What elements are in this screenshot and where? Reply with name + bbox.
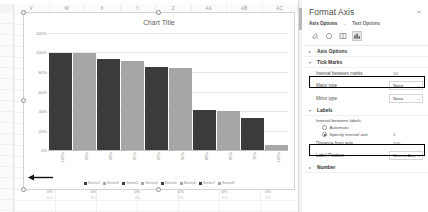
field-minor-type[interactable]: Minor type None ⌄: [304, 92, 428, 105]
field-label-position[interactable]: Label Position Next to Axis ⌄: [304, 149, 428, 162]
x-axis-tick-label: 93%: [144, 151, 168, 173]
chart-bar[interactable]: [241, 118, 264, 150]
chevron-down-icon[interactable]: ⌄: [416, 8, 422, 15]
chevron-down-icon[interactable]: ⌄: [417, 154, 420, 158]
chevron-down-icon[interactable]: ⌄: [417, 97, 420, 101]
radio-specify-interval-unit-label: Specify interval unit: [330, 132, 391, 137]
row-header-cell[interactable]: [0, 35, 14, 46]
row-header-cell[interactable]: [0, 178, 14, 189]
select-all-corner[interactable]: [0, 4, 14, 13]
row-header-cell[interactable]: [0, 46, 14, 57]
chart-bar[interactable]: [217, 111, 240, 150]
bar-series-group[interactable]: [48, 33, 288, 150]
section-tick-marks[interactable]: ▾ Tick Marks: [304, 57, 428, 68]
chevron-right-icon[interactable]: ▸: [309, 165, 314, 170]
worksheet-cell[interactable]: 0%0%: [28, 188, 72, 208]
chart-object[interactable]: Chart Title 120%100%80%60%40%20%0% 100%9…: [23, 12, 295, 190]
row-header-cell[interactable]: [0, 24, 14, 35]
label-position-dropdown[interactable]: Next to Axis ⌄: [389, 151, 423, 160]
legend-item[interactable]: Series5: [161, 181, 177, 185]
section-number[interactable]: ▸ Number: [304, 162, 428, 173]
section-axis-options[interactable]: ▸ Axis Options: [304, 46, 428, 57]
legend-item[interactable]: Series4: [141, 181, 157, 185]
tab-text-options[interactable]: Text Options: [352, 21, 380, 26]
worksheet-cell[interactable]: 0%0%: [72, 188, 116, 208]
legend-item[interactable]: Series6: [180, 181, 196, 185]
row-header-cell[interactable]: [0, 112, 14, 123]
chart-bar[interactable]: [193, 110, 216, 150]
fill-line-icon[interactable]: [310, 31, 320, 41]
pane-resize-grip[interactable]: [299, 8, 302, 30]
format-axis-pane[interactable]: Format Axis ⌄ Axis Options ⌄ Text Option…: [298, 0, 428, 212]
row-header-cell[interactable]: [0, 101, 14, 112]
radio-automatic[interactable]: Automatic: [304, 124, 428, 131]
pane-splitter[interactable]: [299, 0, 302, 212]
section-labels[interactable]: ▾ Labels: [304, 105, 428, 116]
specify-interval-unit-input[interactable]: 1: [393, 132, 423, 137]
legend-item[interactable]: Series2: [103, 181, 119, 185]
field-major-type[interactable]: Major type None ⌄: [304, 79, 428, 92]
chart-resize-handle-top-left[interactable]: [21, 10, 26, 15]
row-header-cell[interactable]: [0, 90, 14, 101]
radio-specify-interval-unit-button[interactable]: [322, 132, 327, 137]
x-axis-tick-labels[interactable]: 100%99%98%95%93%90%88%85%70%100%: [48, 151, 288, 173]
worksheet-area[interactable]: V W X Y Z AA AB AC: [0, 0, 298, 212]
radio-specify-interval-unit[interactable]: Specify interval unit 1: [304, 131, 428, 138]
chart-bar[interactable]: [73, 53, 96, 150]
radio-automatic-label: Automatic: [330, 125, 424, 130]
row-header-cell[interactable]: [0, 145, 14, 156]
row-header-cell[interactable]: [0, 134, 14, 145]
row-header-cell[interactable]: [0, 167, 14, 178]
worksheet-cell[interactable]: 0%0%: [115, 188, 159, 208]
axis-options-icon[interactable]: [352, 31, 362, 41]
worksheet-cell[interactable]: 0%0%: [246, 188, 290, 208]
chart-bar[interactable]: [49, 53, 72, 151]
worksheet-cell[interactable]: 0%0%: [203, 188, 247, 208]
chart-resize-handle-bottom-center[interactable]: [156, 187, 161, 192]
field-interval-between-marks[interactable]: Interval between marks 10: [304, 68, 428, 79]
chevron-down-icon[interactable]: ⌄: [417, 84, 420, 88]
legend-item[interactable]: Series7: [199, 181, 215, 185]
legend-item[interactable]: Series8: [218, 181, 234, 185]
row-header-cell[interactable]: [0, 79, 14, 90]
minor-type-dropdown[interactable]: None ⌄: [389, 94, 423, 103]
legend-item[interactable]: Series3: [122, 181, 138, 185]
size-and-properties-icon[interactable]: [338, 31, 348, 41]
chart-resize-handle-top-center[interactable]: [156, 10, 161, 15]
row-header-cell[interactable]: [0, 123, 14, 134]
y-axis-tick-labels[interactable]: 120%100%80%60%40%20%0%: [26, 33, 48, 150]
chart-bar[interactable]: [145, 67, 168, 150]
chart-bar[interactable]: [121, 61, 144, 150]
chart-resize-handle-bottom-left[interactable]: [21, 187, 26, 192]
field-distance-from-axis[interactable]: Distance from axis 100: [304, 138, 428, 149]
row-header-cell[interactable]: [0, 156, 14, 167]
legend-item[interactable]: Series1: [84, 181, 100, 185]
interval-between-marks-input[interactable]: 10: [393, 71, 423, 76]
legend-swatch: [218, 182, 221, 185]
chart-legend[interactable]: Series1Series2Series3Series4Series5Serie…: [24, 181, 294, 185]
chevron-down-icon[interactable]: ▾: [309, 108, 314, 113]
tab-axis-options[interactable]: Axis Options: [309, 21, 337, 26]
radio-automatic-button[interactable]: [322, 125, 327, 130]
chart-bar[interactable]: [97, 59, 120, 150]
row-header-cell[interactable]: [0, 68, 14, 79]
pane-icon-toolbar[interactable]: [304, 26, 428, 46]
chevron-down-icon[interactable]: ▾: [309, 60, 314, 65]
chart-bar[interactable]: [169, 68, 192, 150]
row-header-cell[interactable]: [0, 200, 14, 211]
plot-area[interactable]: [48, 33, 288, 150]
interval-between-marks-label: Interval between marks: [316, 71, 389, 76]
effects-icon[interactable]: [324, 31, 334, 41]
major-type-dropdown[interactable]: None ⌄: [389, 81, 423, 90]
row-header-column[interactable]: [0, 13, 14, 212]
chevron-right-icon[interactable]: ▸: [309, 49, 314, 54]
row-header-cell[interactable]: [0, 57, 14, 68]
distance-from-axis-input[interactable]: 100: [393, 141, 423, 146]
row-header-cell[interactable]: [0, 13, 14, 24]
legend-label: Series7: [203, 181, 215, 185]
chart-resize-handle-middle-left[interactable]: [21, 98, 26, 103]
chevron-down-icon[interactable]: ⌄: [343, 21, 346, 26]
worksheet-cell[interactable]: 0%0%: [159, 188, 203, 208]
row-header-cell[interactable]: [0, 189, 14, 200]
chart-title[interactable]: Chart Title: [24, 19, 294, 26]
